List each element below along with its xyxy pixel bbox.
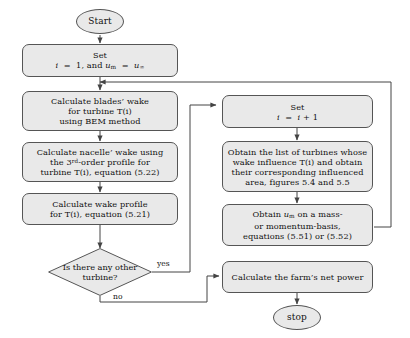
node-obtain-turbine-list-line-3: their corresponding influenced	[227, 167, 368, 177]
node-obtain-um-line-1: Obtain um on a mass-	[227, 209, 368, 221]
node-obtain-um-line-3: equations (5.51) or (5.52)	[227, 231, 368, 241]
node-obtain-turbine-list-line-4: area, figures 5.4 and 5.5	[227, 177, 368, 187]
node-net-power-text: Calculate the farm’s net power	[223, 272, 372, 282]
flowchart-canvas: Start Set i = 1, and um = u∞ Calculate b…	[0, 0, 410, 338]
node-set-init-line-1: Set	[27, 50, 173, 60]
node-obtain-turbine-list-line-2: wake influence T(i) and obtain	[227, 157, 368, 167]
node-blades-wake-line-2: for turbine T(i)	[27, 106, 173, 116]
node-set-init-line-2: i = 1, and um = u∞	[27, 60, 173, 72]
node-net-power[interactable]: Calculate the farm’s net power	[222, 261, 373, 293]
edge-label-yes: yes	[157, 259, 170, 268]
node-nacelle-wake-line-2: the 3rd-order profile for	[27, 157, 173, 167]
node-nacelle-wake-line-1: Calculate nacelle’ wake using	[27, 147, 173, 157]
node-decision-other-turbine[interactable]: Is there any other turbine?	[48, 248, 152, 296]
node-wake-profile-line-2: for T(i), equation (5.21)	[27, 209, 173, 219]
node-start-label: Start	[77, 16, 123, 27]
node-set-increment-text: Set i = i + 1	[223, 102, 372, 122]
node-set-init-text: Set i = 1, and um = u∞	[23, 50, 177, 72]
node-start[interactable]: Start	[76, 9, 124, 34]
node-blades-wake-line-3: using BEM method	[27, 116, 173, 126]
node-nacelle-wake-text: Calculate nacelle’ wake using the 3rd-or…	[23, 147, 177, 177]
node-decision-line-1: Is there any	[63, 262, 113, 272]
node-set-increment-line-1: Set	[227, 102, 368, 112]
node-obtain-um-text: Obtain um on a mass- or momentum-basis, …	[223, 209, 372, 241]
edge-label-no: no	[113, 292, 122, 301]
node-set-increment[interactable]: Set i = i + 1	[222, 95, 373, 128]
node-obtain-turbine-list-text: Obtain the list of turbines whose wake i…	[223, 147, 372, 187]
node-obtain-turbine-list-line-1: Obtain the list of turbines whose	[227, 147, 368, 157]
node-nacelle-wake[interactable]: Calculate nacelle’ wake using the 3rd-or…	[22, 142, 178, 182]
node-set-increment-line-2: i = i + 1	[227, 112, 368, 122]
node-stop[interactable]: stop	[273, 305, 321, 330]
node-set-init[interactable]: Set i = 1, and um = u∞	[22, 44, 178, 77]
node-wake-profile[interactable]: Calculate wake profile for T(i), equatio…	[22, 193, 178, 225]
node-obtain-um[interactable]: Obtain um on a mass- or momentum-basis, …	[222, 204, 373, 246]
node-stop-label: stop	[274, 312, 320, 323]
node-blades-wake[interactable]: Calculate blades’ wake for turbine T(i) …	[22, 91, 178, 131]
node-blades-wake-text: Calculate blades’ wake for turbine T(i) …	[23, 96, 177, 126]
node-decision-text: Is there any other turbine?	[48, 262, 152, 283]
node-obtain-turbine-list[interactable]: Obtain the list of turbines whose wake i…	[222, 141, 373, 192]
node-wake-profile-line-1: Calculate wake profile	[27, 199, 173, 209]
node-nacelle-wake-line-3: turbine T(i), equation (5.22)	[27, 167, 173, 177]
node-blades-wake-line-1: Calculate blades’ wake	[27, 96, 173, 106]
node-wake-profile-text: Calculate wake profile for T(i), equatio…	[23, 199, 177, 219]
node-obtain-um-line-2: or momentum-basis,	[227, 221, 368, 231]
